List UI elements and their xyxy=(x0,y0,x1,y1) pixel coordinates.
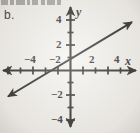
x-tick-label-neg2: −2 xyxy=(49,53,61,65)
y-tick-label-neg2: −2 xyxy=(51,88,63,100)
figure-panel: b. xyxy=(0,0,140,133)
y-tick-label-neg4: −4 xyxy=(51,113,63,125)
x-tick-label-4: 4 xyxy=(114,53,120,65)
coordinate-plot xyxy=(0,0,140,133)
x-tick-label-2: 2 xyxy=(89,53,95,65)
y-tick-label-2: 2 xyxy=(56,38,62,50)
x-axis-label: x xyxy=(125,54,131,69)
y-tick-label-4: 4 xyxy=(56,13,62,25)
x-tick-label-neg4: −4 xyxy=(24,53,36,65)
y-axis-label: y xyxy=(76,5,81,20)
y-axis xyxy=(66,7,75,127)
